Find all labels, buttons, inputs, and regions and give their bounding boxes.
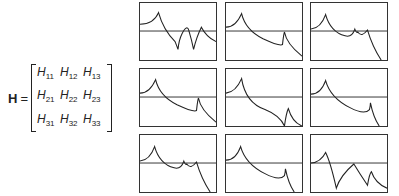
frf-curve xyxy=(311,81,379,126)
frf-plot-h11 xyxy=(139,2,217,61)
subscript: 31 xyxy=(46,119,55,128)
subscript: 13 xyxy=(92,72,101,81)
subscript: 21 xyxy=(46,96,55,105)
matrix-entry-23: H23 xyxy=(83,87,106,108)
frf-curve xyxy=(226,147,294,192)
frf-matrix-equation: H = H11H12H13H21H22H23H31H32H33 xyxy=(8,70,112,126)
subscript: 33 xyxy=(92,119,101,128)
frf-plot-h21 xyxy=(139,68,217,127)
frf-curve xyxy=(140,80,216,123)
subscript: 11 xyxy=(46,72,54,81)
frf-curve xyxy=(311,152,387,188)
matrix-entry-11: H11 xyxy=(37,64,60,85)
matrix-entry-33: H33 xyxy=(83,111,106,132)
frf-curve xyxy=(311,15,381,60)
equals-sign: = xyxy=(20,91,28,106)
frf-plot-h33 xyxy=(310,134,388,193)
matrix-entry-32: H32 xyxy=(60,111,83,132)
frf-plot-h32 xyxy=(225,134,303,193)
subscript: 22 xyxy=(69,96,78,105)
matrix-entry-22: H22 xyxy=(60,87,83,108)
frf-plot-h23 xyxy=(310,68,388,127)
matrix-entry-31: H31 xyxy=(37,111,60,132)
subscript: 32 xyxy=(69,119,78,128)
frf-curve xyxy=(140,147,210,192)
matrix-entry-12: H12 xyxy=(60,64,83,85)
frf-plot-h31 xyxy=(139,134,217,193)
matrix-entry-21: H21 xyxy=(37,87,60,108)
frf-plot-h22 xyxy=(225,68,303,127)
frf-curve xyxy=(226,79,302,126)
frf-curve xyxy=(226,14,302,57)
subscript: 23 xyxy=(92,96,101,105)
subscript: 12 xyxy=(69,72,78,81)
matrix-bracket: H11H12H13H21H22H23H31H32H33 xyxy=(31,64,112,132)
frf-plot-h13 xyxy=(310,2,388,61)
frf-plot-h12 xyxy=(225,2,303,61)
matrix-entry-13: H13 xyxy=(83,64,106,85)
matrix-symbol: H xyxy=(8,91,17,106)
